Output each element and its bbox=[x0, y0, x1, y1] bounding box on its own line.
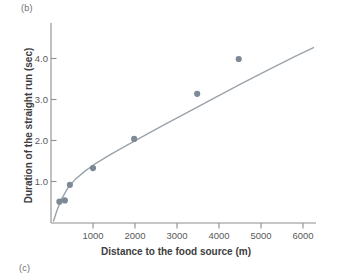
data-point bbox=[194, 91, 200, 97]
x-tick-label-1000: 1000 bbox=[73, 230, 113, 241]
data-point bbox=[236, 56, 242, 62]
x-tick-label-4000: 4000 bbox=[199, 230, 239, 241]
y-axis-title: Duration of the straight run (sec) bbox=[23, 36, 34, 216]
data-point bbox=[131, 136, 137, 142]
x-axis-title: Distance to the food source (m) bbox=[51, 246, 301, 257]
axes bbox=[51, 23, 316, 223]
data-point bbox=[62, 197, 68, 203]
y-axis-ticks bbox=[51, 59, 57, 182]
x-tick-label-3000: 3000 bbox=[157, 230, 197, 241]
data-point bbox=[90, 165, 96, 171]
x-tick-label-6000: 6000 bbox=[283, 230, 323, 241]
data-point bbox=[67, 182, 73, 188]
x-axis-ticks bbox=[93, 223, 303, 229]
data-point-group bbox=[56, 56, 242, 205]
x-tick-label-5000: 5000 bbox=[241, 230, 281, 241]
x-tick-label-2000: 2000 bbox=[115, 230, 155, 241]
data-point bbox=[56, 199, 62, 205]
figure-panel-b: (b) 4.0 3.0 bbox=[0, 0, 337, 280]
panel-label-c: (c) bbox=[19, 263, 30, 273]
fit-curve bbox=[54, 48, 314, 221]
scatter-plot: 4.0 3.0 2.0 1.0 1000 2000 3000 4000 5000… bbox=[0, 0, 337, 280]
